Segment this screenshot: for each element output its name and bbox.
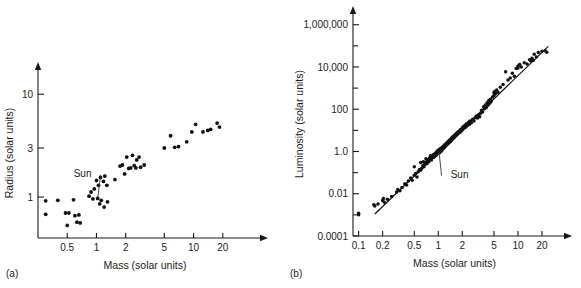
data-point: [75, 220, 79, 224]
data-point: [103, 174, 107, 178]
x-axis-arrow: [564, 233, 572, 239]
x-tick-label: 5: [162, 242, 168, 253]
data-point: [99, 198, 103, 202]
panel-b-luminosity-mass: 0.10.20.512510200.00010.011.010010,0001,…: [290, 0, 581, 288]
data-point: [513, 75, 517, 79]
x-tick-label: 0.5: [60, 242, 74, 253]
data-point: [44, 212, 48, 216]
y-tick-label: 1: [27, 192, 33, 203]
data-point: [89, 190, 93, 194]
data-point: [481, 110, 485, 114]
data-point: [509, 76, 513, 80]
data-point: [383, 200, 387, 204]
data-point: [535, 55, 539, 59]
y-tick-label: 10: [22, 89, 34, 100]
y-tick-label: 10,000: [317, 62, 348, 73]
data-point: [478, 115, 482, 119]
sun-annotation-label: Sun: [74, 168, 92, 179]
y-axis-title: Radius (solar units): [3, 108, 15, 198]
data-point: [169, 134, 173, 138]
data-point: [64, 211, 68, 215]
data-point: [190, 130, 194, 134]
data-point: [501, 83, 505, 87]
x-axis-title: Mass (solar units): [104, 259, 187, 271]
data-point: [201, 130, 205, 134]
data-point: [194, 122, 198, 126]
data-point: [185, 140, 189, 144]
data-point: [177, 145, 181, 149]
y-tick-label: 0.01: [329, 188, 349, 199]
data-point: [209, 128, 213, 132]
data-point: [134, 166, 138, 170]
data-point: [489, 100, 493, 104]
data-point: [120, 163, 124, 167]
data-point: [98, 202, 102, 206]
data-point: [373, 204, 377, 208]
x-tick-label: 2: [460, 240, 466, 251]
data-points-group: [44, 121, 222, 227]
data-point: [77, 213, 81, 217]
data-point: [413, 165, 417, 169]
data-point: [525, 62, 529, 66]
data-point: [95, 179, 99, 183]
x-axis-arrow: [260, 235, 268, 241]
data-point: [123, 172, 127, 176]
figure-container: 0.512510201310SunMass (solar units)Radiu…: [0, 0, 581, 288]
y-axis-title: Luminosity (solar units): [293, 70, 305, 178]
data-point: [87, 194, 91, 198]
data-point: [540, 50, 544, 54]
data-point: [382, 197, 386, 201]
y-axis-arrow: [35, 62, 41, 70]
x-tick-label: 0.5: [407, 240, 421, 251]
y-tick-label: 1.0: [334, 146, 348, 157]
x-tick-label: 1: [94, 242, 100, 253]
data-point: [102, 205, 106, 209]
data-point: [504, 70, 508, 74]
x-axis-title: Mass (solar units): [413, 257, 496, 269]
data-point: [91, 197, 95, 201]
data-point: [44, 199, 48, 203]
data-point: [511, 72, 515, 76]
data-point: [520, 65, 524, 69]
data-point: [415, 175, 419, 179]
data-point: [131, 153, 135, 157]
data-point: [410, 178, 414, 182]
x-tick-label: 10: [188, 242, 200, 253]
data-point: [106, 200, 110, 204]
data-point: [531, 59, 535, 63]
data-point: [78, 221, 82, 225]
panel-a-radius-mass: 0.512510201310SunMass (solar units)Radiu…: [0, 0, 290, 288]
data-point: [499, 85, 503, 89]
x-tick-label: 0.2: [376, 240, 390, 251]
sun-annotation-label: Sun: [451, 169, 469, 180]
data-point: [496, 90, 500, 94]
panel-label: (a): [6, 268, 18, 279]
x-tick-label: 2: [123, 242, 129, 253]
sun-leader-line: [439, 151, 442, 175]
y-tick-label: 0.0001: [317, 231, 348, 242]
data-point: [398, 189, 402, 193]
data-point: [407, 179, 411, 183]
data-point: [376, 202, 380, 206]
data-point: [73, 214, 77, 218]
y-axis-arrow: [350, 6, 356, 14]
data-point: [390, 195, 394, 199]
data-point: [142, 163, 146, 167]
panel-b-plot: 0.10.20.512510200.00010.011.010010,0001,…: [290, 0, 581, 288]
data-point: [92, 187, 96, 191]
x-tick-label: 10: [512, 240, 524, 251]
data-point: [545, 50, 549, 54]
data-point: [173, 145, 177, 149]
x-tick-label: 0.1: [352, 240, 366, 251]
data-point: [537, 51, 541, 55]
panel-label: (b): [290, 268, 302, 279]
data-point: [215, 121, 219, 125]
y-tick-label: 3: [27, 143, 33, 154]
x-tick-label: 20: [536, 240, 548, 251]
data-point: [56, 198, 60, 202]
data-point: [162, 146, 166, 150]
data-point: [105, 183, 109, 187]
data-point: [65, 224, 69, 228]
data-point: [125, 155, 129, 159]
data-point: [357, 213, 361, 217]
